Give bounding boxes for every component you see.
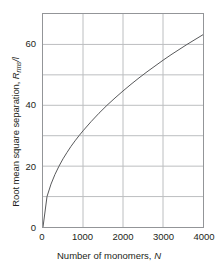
chart-figure: Root mean square separation, Rrms/l 0 20… bbox=[0, 0, 218, 273]
y-tick-label-40: 40 bbox=[10, 100, 36, 110]
x-axis-label-text: Number of monomers, bbox=[57, 250, 154, 261]
y-axis-label-subscript: rms bbox=[15, 62, 22, 73]
y-tick-label-20: 20 bbox=[10, 162, 36, 172]
x-tick-label-3000: 3000 bbox=[144, 232, 184, 242]
x-tick-label-2000: 2000 bbox=[103, 232, 143, 242]
y-axis-label-tail: /l bbox=[10, 57, 21, 62]
x-axis-label: Number of monomers, N bbox=[0, 250, 218, 262]
y-axis-label-variable: R bbox=[10, 72, 21, 79]
y-axis-label-text: Root mean square separation, bbox=[10, 79, 21, 207]
x-tick-label-4000: 4000 bbox=[184, 232, 218, 242]
y-tick-label-60: 60 bbox=[10, 39, 36, 49]
vertical-gridlines bbox=[83, 14, 163, 227]
plot-svg bbox=[43, 14, 203, 227]
x-axis-label-variable: N bbox=[154, 250, 161, 261]
x-tick-label-1000: 1000 bbox=[63, 232, 103, 242]
x-tick-label-0: 0 bbox=[22, 232, 62, 242]
y-axis-label: Root mean square separation, Rrms/l bbox=[8, 16, 24, 248]
plot-area bbox=[42, 13, 204, 228]
